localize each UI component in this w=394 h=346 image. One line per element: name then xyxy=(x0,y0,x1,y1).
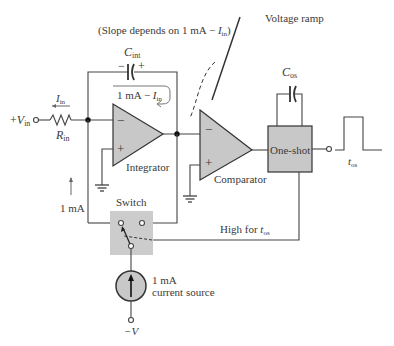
c-os-wire-left xyxy=(277,94,290,126)
integrator-label: Integrator xyxy=(126,161,170,173)
integrator-output-to-switch-wire xyxy=(146,134,177,223)
c-os-label: Cos xyxy=(282,65,297,80)
switch-label: Switch xyxy=(116,196,147,208)
input-current-label: Iin xyxy=(55,92,66,106)
input-current-arrowhead xyxy=(52,104,56,108)
ramp-label-line2: (Slope depends on 1 mA − Iin) xyxy=(98,24,231,38)
c-int-minus: − xyxy=(118,59,125,73)
integrator-plus-to-ground-wire xyxy=(102,149,113,185)
ground-icon xyxy=(183,196,197,202)
c-int-label: Cint xyxy=(124,45,141,60)
output-terminal xyxy=(327,147,332,152)
vin-label: +Vin xyxy=(10,113,30,128)
one-ma-label: 1 mA xyxy=(60,202,85,214)
one-shot-label: One-shot xyxy=(270,144,310,156)
switch-common xyxy=(129,244,134,249)
integrator-minus: − xyxy=(117,113,124,128)
neg-supply-label: −V xyxy=(124,325,139,337)
ground-icon xyxy=(95,185,109,191)
feedback-current-label: 1 mA − Iin xyxy=(117,89,162,103)
output-pulse-waveform xyxy=(335,117,382,150)
neg-supply-terminal xyxy=(129,318,134,323)
ramp-label-line1: Voltage ramp xyxy=(265,12,324,24)
switch-contact-left xyxy=(119,221,124,226)
c-int-plus: + xyxy=(138,59,145,73)
r-in-resistor xyxy=(50,115,71,125)
current-source-value: 1 mA xyxy=(152,274,177,286)
circuit-diagram: Voltage ramp (Slope depends on 1 mA − Ii… xyxy=(0,0,394,346)
c-int-plate-right xyxy=(132,64,134,80)
vin-terminal xyxy=(34,118,39,123)
current-source-label: current source xyxy=(152,286,215,298)
r-in-label: Rin xyxy=(55,128,70,143)
comparator-plus: + xyxy=(205,155,212,170)
comparator-minus: − xyxy=(205,122,212,137)
c-os-wire-right xyxy=(295,94,302,126)
comparator-label: Comparator xyxy=(214,173,267,185)
ramp-indicator-dashed xyxy=(190,62,215,118)
comparator-plus-to-ground-wire xyxy=(190,165,200,196)
switch-contact-right xyxy=(140,221,145,226)
t-os-label: tos xyxy=(348,155,358,169)
high-for-tos-label: High for tos xyxy=(220,223,270,237)
one-ma-arrowhead xyxy=(69,177,73,182)
integrator-plus: + xyxy=(117,141,124,156)
